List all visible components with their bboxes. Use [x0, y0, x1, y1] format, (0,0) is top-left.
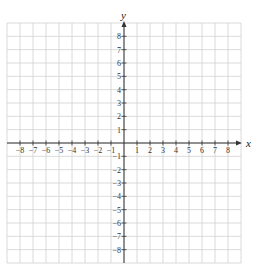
x-tick-label: −8: [16, 146, 25, 155]
x-tick-label: −2: [94, 146, 103, 155]
x-tick-label: 2: [148, 146, 152, 155]
y-tick-label: 7: [117, 46, 121, 55]
x-tick-label: 3: [161, 146, 165, 155]
y-axis-label: y: [120, 9, 126, 21]
x-tick-label: 7: [213, 146, 217, 155]
x-tick-label: 5: [187, 146, 191, 155]
x-tick-label: 1: [135, 146, 139, 155]
x-tick-label: −7: [29, 146, 38, 155]
y-tick-label: −7: [112, 232, 121, 241]
x-tick-label: 6: [200, 146, 204, 155]
axes: [7, 21, 242, 263]
x-axis-label: x: [245, 137, 251, 149]
y-tick-label: 2: [117, 112, 121, 121]
y-tick-label: −2: [112, 166, 121, 175]
x-tick-label: −3: [81, 146, 90, 155]
x-tick-label: −4: [68, 146, 77, 155]
y-tick-label: 3: [117, 99, 121, 108]
y-tick-label: −5: [112, 206, 121, 215]
y-tick-label: −3: [112, 179, 121, 188]
y-tick-label: 6: [117, 59, 121, 68]
x-tick-label: −6: [42, 146, 51, 155]
y-axis-arrow-icon: [122, 21, 127, 27]
y-tick-label: −4: [112, 192, 121, 201]
x-tick-label: 4: [174, 146, 178, 155]
y-tick-label: −1: [112, 152, 121, 161]
y-tick-label: 8: [117, 32, 121, 41]
y-tick-label: 4: [117, 86, 121, 95]
coordinate-plane: −8−7−6−5−4−3−2−112345678 87654321−1−2−3−…: [0, 0, 257, 274]
x-tick-label: 8: [226, 146, 230, 155]
y-tick-label: 1: [117, 126, 121, 135]
y-tick-label: −6: [112, 219, 121, 228]
y-tick-label: −8: [112, 246, 121, 255]
y-tick-label: 5: [117, 72, 121, 81]
x-tick-label: −5: [55, 146, 64, 155]
